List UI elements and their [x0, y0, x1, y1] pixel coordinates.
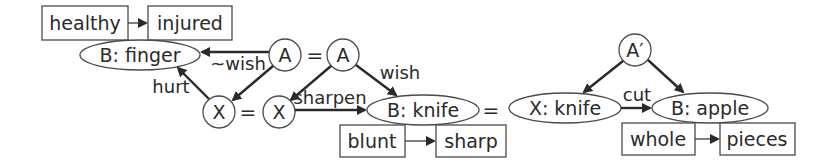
state-transition-apple: whole pieces [622, 123, 795, 155]
node-label-a2: A [337, 44, 350, 66]
state-transition-finger: healthy injured [42, 6, 232, 40]
node-b-apple: B: apple [652, 93, 768, 123]
equals-sign-a: = [307, 43, 324, 67]
node-b-finger: B: finger [80, 40, 200, 70]
state-transition-knife: blunt sharp [340, 125, 506, 157]
node-b-knife: B: knife [367, 95, 479, 125]
node-label-b-apple: B: apple [671, 97, 749, 119]
equals-sign-knife: = [483, 98, 500, 122]
equals-sign-x: = [240, 100, 257, 124]
node-x-knife: X: knife [509, 93, 621, 123]
edge-a-prime-to-b-apple [648, 60, 683, 92]
node-label-a1: A [279, 44, 292, 66]
node-x1: X [203, 96, 235, 128]
node-label-b-knife: B: knife [387, 99, 459, 121]
edge-a-prime-to-x-knife [584, 61, 623, 92]
state-label-healthy: healthy [49, 12, 120, 34]
node-a1: A [269, 39, 301, 71]
node-a-prime: A′ [619, 34, 651, 66]
edge-label-wish: wish [380, 62, 421, 83]
node-label-x2: X [272, 101, 285, 123]
diagram-canvas: healthy injured B: finger ~wish A hurt X… [0, 0, 836, 168]
state-label-whole: whole [630, 128, 686, 150]
edge-label-cut: cut [623, 84, 651, 105]
state-label-blunt: blunt [348, 130, 397, 152]
node-label-a-prime: A′ [626, 39, 643, 61]
node-label-x-knife: X: knife [529, 97, 601, 119]
node-x2: X [263, 96, 295, 128]
state-label-pieces: pieces [726, 128, 787, 150]
node-label-x1: X [212, 101, 225, 123]
node-a2: A [327, 39, 359, 71]
edge-label-not-wish: ~wish [210, 53, 266, 74]
edge-label-hurt: hurt [152, 76, 189, 97]
edge-label-sharpen: sharpen [293, 87, 366, 108]
state-label-sharp: sharp [444, 130, 497, 152]
node-label-b-finger: B: finger [99, 44, 180, 66]
state-label-injured: injured [157, 12, 223, 34]
